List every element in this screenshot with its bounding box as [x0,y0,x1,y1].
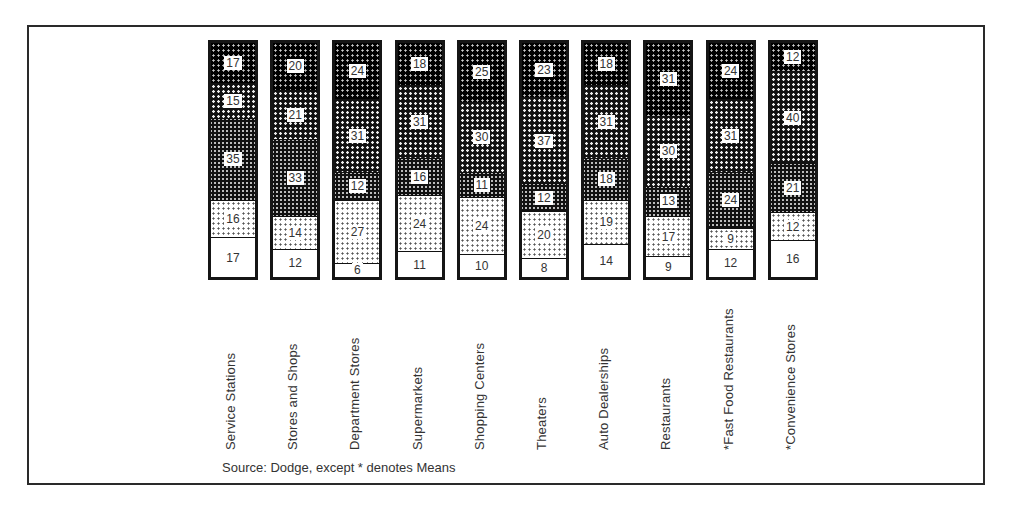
bar-segment: 15 [211,83,255,118]
bar-segment: 24 [460,197,504,253]
bar-service-stations: 1715351617 [208,40,258,280]
bar-segment: 12 [522,183,566,211]
bar-segment: 12 [709,249,753,277]
category-label: *Convenience Stores [782,290,802,450]
bar-segment: 9 [646,256,690,277]
bar-department-stores: 243112276 [332,40,382,280]
bar-segment: 9 [709,228,753,249]
bar-segment: 20 [273,43,317,90]
bar-segment: 31 [335,99,379,172]
segment-value: 11 [474,178,490,192]
bar-segment: 14 [584,244,628,277]
category-label: Department Stores [346,290,366,450]
bar-segment: 18 [584,158,628,200]
category-label: Service Stations [222,290,242,450]
segment-value: 9 [725,232,736,246]
bar-segment: 31 [709,99,753,172]
segment-value: 24 [722,193,739,207]
segment-value: 31 [598,115,615,129]
category-label: Stores and Shops [284,290,304,450]
category-label: Restaurants [657,290,677,450]
bar-segment: 16 [771,240,815,277]
segment-value: 15 [224,94,241,108]
bar-segment: 16 [211,200,255,237]
segment-value: 14 [598,254,615,268]
bar-stores-and-shops: 2021331412 [270,40,320,280]
segment-value: 16 [224,212,241,226]
bar-shopping-centers: 2530112410 [457,40,507,280]
segment-value: 12 [722,256,739,270]
bar-segment: 25 [460,43,504,102]
segment-value: 12 [535,191,552,205]
segment-value: 30 [473,130,490,144]
category-label: Shopping Centers [471,290,491,450]
bar-segment: 30 [460,102,504,172]
segment-value: 12 [784,50,801,64]
bar-segment: 20 [522,211,566,258]
segment-value: 24 [473,219,490,233]
segment-value: 31 [411,115,428,129]
bar-segment: 31 [584,85,628,158]
bar-segment: 12 [771,212,815,240]
segment-value: 18 [411,57,428,71]
bar-convenience-stores: 1240211216 [768,40,818,280]
bar-fast-food-restaurants: 243124912 [706,40,756,280]
bar-segment: 31 [398,85,442,158]
segment-value: 8 [539,261,550,275]
bar-segment: 11 [398,251,442,277]
segment-value: 31 [349,129,366,143]
segment-value: 20 [287,59,304,73]
bar-segment: 40 [771,71,815,164]
bar-segment: 23 [522,43,566,97]
category-label: Theaters [533,290,553,450]
bar-segment: 21 [771,163,815,212]
bar-segment: 24 [398,195,442,251]
bar-segment: 24 [335,43,379,99]
segment-value: 37 [535,134,552,148]
bar-segment: 19 [584,200,628,244]
bar-segment: 10 [460,254,504,277]
segment-value: 33 [287,171,304,185]
segment-value: 16 [411,170,428,184]
segment-value: 31 [722,129,739,143]
bar-segment: 17 [211,237,255,277]
segment-value: 12 [784,220,801,234]
bar-segment: 13 [646,186,690,216]
segment-value: 17 [224,56,241,70]
segment-value: 16 [784,252,801,266]
segment-value: 24 [722,64,739,78]
bar-segment: 31 [646,43,690,116]
bar-segment: 8 [522,258,566,277]
segment-value: 18 [598,172,615,186]
segment-value: 18 [598,57,615,71]
segment-value: 12 [349,179,366,193]
segment-value: 11 [411,258,427,272]
segment-value: 6 [352,263,363,277]
bar-segment: 33 [273,139,317,216]
segment-value: 10 [473,259,490,273]
segment-value: 17 [224,251,241,265]
category-label: Supermarkets [409,290,429,450]
segment-value: 12 [287,256,304,270]
bar-segment: 21 [273,90,317,139]
bar-segment: 30 [646,116,690,186]
bar-auto-dealerships: 1831181914 [581,40,631,280]
bar-segment: 17 [211,43,255,83]
segment-value: 14 [287,226,304,240]
bar-segment: 18 [398,43,442,85]
bar-segment: 16 [398,158,442,195]
bar-segment: 12 [273,249,317,277]
segment-value: 20 [535,228,552,242]
bar-theaters: 233712208 [519,40,569,280]
bar-segment: 12 [771,43,815,71]
segment-value: 24 [349,64,366,78]
bar-restaurants: 313013179 [643,40,693,280]
bar-segment: 14 [273,216,317,249]
bar-segment: 24 [709,172,753,228]
bar-segment: 35 [211,118,255,200]
segment-value: 23 [535,63,552,77]
segment-value: 24 [411,217,428,231]
segment-value: 9 [663,260,674,274]
segment-value: 27 [349,225,366,239]
segment-value: 19 [598,215,615,229]
